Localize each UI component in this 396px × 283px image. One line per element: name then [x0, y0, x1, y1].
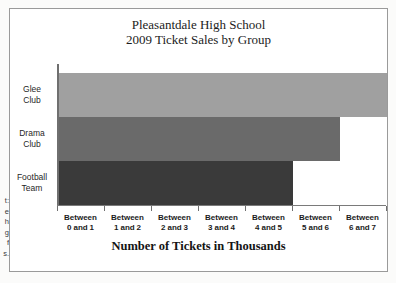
margin-bleed-line-3: h — [0, 217, 9, 228]
category-label-line-1: Glee — [10, 84, 54, 95]
plot-area: Glee Club Drama Club Football Team Betwe… — [10, 9, 387, 271]
tick-label-line-2: 1 and 2 — [101, 223, 155, 233]
x-axis-title: Number of Tickets in Thousands — [10, 239, 387, 254]
category-label-drama-club: Drama Club — [10, 128, 54, 149]
margin-bleed-line-1: t: — [0, 196, 9, 207]
category-label-line-2: Club — [10, 139, 54, 150]
category-label-line-1: Football — [10, 172, 54, 183]
tick-label-line-1: Between — [242, 213, 296, 223]
category-label-line-2: Team — [10, 183, 54, 194]
tick-label-line-1: Between — [148, 213, 202, 223]
tick-label-line-1: Between — [336, 213, 390, 223]
margin-bleed-line-4: g — [0, 228, 9, 239]
x-axis-tick-2 — [151, 206, 152, 211]
x-axis-tick-label-5: Between 5 and 6 — [289, 213, 343, 233]
tick-label-line-2: 0 and 1 — [54, 223, 108, 233]
tick-label-line-1: Between — [101, 213, 155, 223]
x-axis-tick-5 — [292, 206, 293, 211]
tick-label-line-2: 2 and 3 — [148, 223, 202, 233]
tick-label-line-2: 5 and 6 — [289, 223, 343, 233]
tick-label-line-2: 3 and 4 — [195, 223, 249, 233]
x-axis-tick-7 — [386, 206, 387, 211]
x-axis-tick-3 — [198, 206, 199, 211]
tick-label-line-1: Between — [54, 213, 108, 223]
category-label-line-1: Drama — [10, 128, 54, 139]
x-axis-tick-label-4: Between 4 and 5 — [242, 213, 296, 233]
x-axis-tick-label-3: Between 3 and 4 — [195, 213, 249, 233]
margin-bleed-line-2: e — [0, 207, 9, 218]
category-label-football-team: Football Team — [10, 172, 54, 193]
x-axis-tick-label-0: Between 0 and 1 — [54, 213, 108, 233]
margin-bleed-text: t: e h g f s. — [0, 196, 9, 272]
category-label-glee-club: Glee Club — [10, 84, 54, 105]
x-axis-tick-0 — [57, 206, 58, 211]
x-axis-tick-label-1: Between 1 and 2 — [101, 213, 155, 233]
bar-football-team — [59, 161, 293, 205]
tick-label-line-1: Between — [195, 213, 249, 223]
bar-glee-club — [59, 73, 387, 117]
category-label-line-2: Club — [10, 95, 54, 106]
x-axis-tick-label-2: Between 2 and 3 — [148, 213, 202, 233]
x-axis-tick-6 — [339, 206, 340, 211]
x-axis-tick-label-6: Between 6 and 7 — [336, 213, 390, 233]
x-axis-tick-4 — [245, 206, 246, 211]
margin-bleed-line-5: f — [0, 238, 9, 249]
x-axis-tick-1 — [104, 206, 105, 211]
figure-box: Pleasantdale High School 2009 Ticket Sal… — [9, 8, 388, 272]
bar-drama-club — [59, 117, 340, 161]
tick-label-line-1: Between — [289, 213, 343, 223]
tick-label-line-2: 4 and 5 — [242, 223, 296, 233]
x-axis-line — [57, 205, 386, 206]
tick-label-line-2: 6 and 7 — [336, 223, 390, 233]
margin-bleed-line-6: s. — [0, 249, 9, 260]
